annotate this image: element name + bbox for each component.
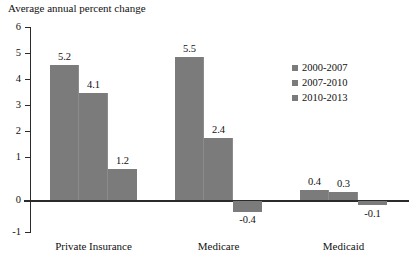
y-tick-mark-3 xyxy=(25,105,30,106)
y-tick-label-6: 6 xyxy=(0,22,21,32)
bar-medicaid-2007-2010 xyxy=(329,192,358,200)
bar-label-medicare-2007-2010: 2.4 xyxy=(204,124,233,135)
legend-item-2010-2013: 2010-2013 xyxy=(292,90,348,105)
y-axis-line xyxy=(30,27,31,233)
bar-label-medicare-2000-2007: 5.5 xyxy=(175,43,204,54)
bar-label-medicaid-2007-2010: 0.3 xyxy=(329,178,358,189)
y-tick-mark-1 xyxy=(25,157,30,158)
y-tick-label-3: 3 xyxy=(0,100,21,110)
bar-medicare-2000-2007 xyxy=(175,57,204,200)
y-tick-label-4: 4 xyxy=(0,74,21,84)
legend-swatch-icon-2010-2013 xyxy=(292,95,298,101)
y-tick-mark-6 xyxy=(25,27,30,28)
bar-chart: Average annual percent change 6 5 4 3 2 … xyxy=(0,0,415,265)
bar-label-medicaid-2010-2013: -0.1 xyxy=(358,208,387,219)
bar-medicare-2010-2013 xyxy=(233,201,262,212)
legend-item-2007-2010: 2007-2010 xyxy=(292,75,348,90)
legend-label-2000-2007: 2000-2007 xyxy=(302,62,348,73)
bar-label-private-insurance-2007-2010: 4.1 xyxy=(79,79,108,90)
x-axis-zero-line xyxy=(24,200,409,202)
legend-item-2000-2007: 2000-2007 xyxy=(292,60,348,75)
y-tick-label-2: 2 xyxy=(0,126,21,136)
y-tick-label-minus-1: -1 xyxy=(0,227,21,237)
y-tick-mark-minus-1 xyxy=(25,232,30,233)
legend: 2000-2007 2007-2010 2010-2013 xyxy=(292,60,348,105)
legend-swatch-icon-2007-2010 xyxy=(292,80,298,86)
category-label-private-insurance: Private Insurance xyxy=(34,240,153,252)
bar-medicare-2007-2010 xyxy=(204,138,233,200)
category-label-medicare: Medicare xyxy=(159,240,278,252)
bar-label-medicare-2010-2013: -0.4 xyxy=(233,214,262,225)
y-tick-label-1: 1 xyxy=(0,152,21,162)
bar-label-medicaid-2000-2007: 0.4 xyxy=(300,176,329,187)
bar-medicaid-2010-2013 xyxy=(358,201,387,205)
y-tick-mark-0 xyxy=(25,200,30,201)
legend-label-2010-2013: 2010-2013 xyxy=(302,92,348,103)
y-tick-mark-5 xyxy=(25,53,30,54)
y-tick-label-5: 5 xyxy=(0,48,21,58)
y-tick-mark-4 xyxy=(25,79,30,80)
bar-private-insurance-2010-2013 xyxy=(108,169,137,200)
y-tick-mark-2 xyxy=(25,131,30,132)
category-label-medicaid: Medicaid xyxy=(284,240,403,252)
bar-label-private-insurance-2000-2007: 5.2 xyxy=(50,51,79,62)
bar-medicaid-2000-2007 xyxy=(300,190,329,200)
bar-label-private-insurance-2010-2013: 1.2 xyxy=(108,155,137,166)
y-tick-label-0: 0 xyxy=(0,195,21,205)
legend-label-2007-2010: 2007-2010 xyxy=(302,77,348,88)
bar-private-insurance-2007-2010 xyxy=(79,93,108,200)
legend-swatch-icon-2000-2007 xyxy=(292,65,298,71)
chart-title: Average annual percent change xyxy=(8,2,146,15)
bar-private-insurance-2000-2007 xyxy=(50,65,79,200)
